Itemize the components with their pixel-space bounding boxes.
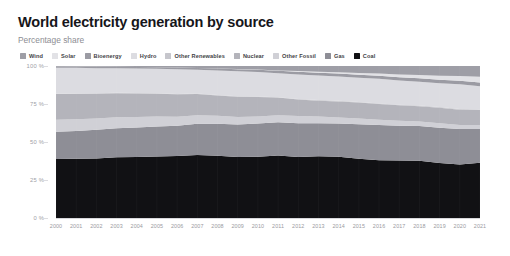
x-axis-tick-label: 2019 (433, 223, 445, 229)
legend-item-other-fossil[interactable]: Other Fossil (273, 53, 316, 59)
legend-item-label: Wind (29, 53, 43, 59)
y-axis-tick-mark (43, 66, 48, 67)
legend-item-label: Solar (61, 53, 76, 59)
x-axis-tick-label: 2012 (292, 223, 304, 229)
x-axis-tick-label: 2004 (131, 223, 143, 229)
x-axis-tick-label: 2013 (312, 223, 324, 229)
stacked-area-chart (56, 66, 480, 218)
legend-item-label: Nuclear (243, 53, 264, 59)
legend-swatch-icon (165, 53, 171, 59)
chart-subtitle: Percentage share (18, 35, 492, 45)
plot-area (56, 66, 480, 218)
y-axis-tick-label: 75 % (30, 101, 44, 107)
legend-item-label: Hydro (140, 53, 157, 59)
legend-item-coal[interactable]: Coal (354, 53, 376, 59)
x-axis-tick-label: 2021 (474, 223, 486, 229)
x-axis-tick-label: 2000 (50, 223, 62, 229)
x-axis-tick-label: 2001 (70, 223, 82, 229)
legend-item-gas[interactable]: Gas (325, 53, 345, 59)
legend-item-solar[interactable]: Solar (52, 53, 76, 59)
legend-item-label: Other Fossil (282, 53, 316, 59)
page-title: World electricity generation by source (18, 14, 492, 31)
chart-card: World electricity generation by source P… (0, 0, 510, 256)
plot-wrapper: 0 %25 %50 %75 %100 % 2000200120022003200… (18, 66, 492, 236)
y-axis-tick-mark (43, 142, 48, 143)
x-axis-tick-label: 2008 (211, 223, 223, 229)
y-axis-tick-mark (43, 104, 48, 105)
y-axis-tick-label: 50 % (30, 139, 44, 145)
x-axis-tick-label: 2015 (353, 223, 365, 229)
chart-legend: WindSolarBioenergyHydroOther RenewablesN… (20, 53, 492, 59)
legend-item-wind[interactable]: Wind (20, 53, 43, 59)
x-axis-tick-label: 2017 (393, 223, 405, 229)
x-axis-tick-label: 2003 (110, 223, 122, 229)
legend-item-nuclear[interactable]: Nuclear (234, 53, 264, 59)
legend-item-hydro[interactable]: Hydro (131, 53, 157, 59)
x-axis-tick-label: 2006 (171, 223, 183, 229)
x-axis-tick-label: 2016 (373, 223, 385, 229)
y-axis-tick-label: 25 % (30, 177, 44, 183)
x-axis-tick-label: 2014 (332, 223, 344, 229)
legend-swatch-icon (354, 53, 360, 59)
x-axis-tick-label: 2020 (454, 223, 466, 229)
legend-item-label: Coal (363, 53, 376, 59)
legend-item-label: Gas (334, 53, 345, 59)
legend-swatch-icon (20, 53, 26, 59)
area-band-coal[interactable] (56, 155, 480, 218)
legend-item-label: Bioenergy (94, 53, 122, 59)
y-axis-tick-mark (43, 180, 48, 181)
x-axis-tick-label: 2009 (232, 223, 244, 229)
x-axis-tick-label: 2011 (272, 223, 284, 229)
x-axis-tick-label: 2007 (191, 223, 203, 229)
y-axis-tick-label: 100 % (27, 63, 44, 69)
y-axis-tick-mark (43, 218, 48, 219)
x-axis-labels: 2000200120022003200420052006200720082009… (56, 218, 480, 232)
legend-swatch-icon (325, 53, 331, 59)
legend-item-bioenergy[interactable]: Bioenergy (85, 53, 122, 59)
x-axis-tick-label: 2002 (90, 223, 102, 229)
legend-swatch-icon (131, 53, 137, 59)
legend-swatch-icon (273, 53, 279, 59)
y-axis-labels: 0 %25 %50 %75 %100 % (18, 66, 48, 218)
legend-swatch-icon (85, 53, 91, 59)
legend-item-label: Other Renewables (174, 53, 224, 59)
legend-swatch-icon (52, 53, 58, 59)
x-axis-tick-label: 2005 (151, 223, 163, 229)
x-axis-tick-label: 2010 (252, 223, 264, 229)
x-axis-tick-label: 2018 (413, 223, 425, 229)
legend-swatch-icon (234, 53, 240, 59)
legend-item-other-renewables[interactable]: Other Renewables (165, 53, 224, 59)
